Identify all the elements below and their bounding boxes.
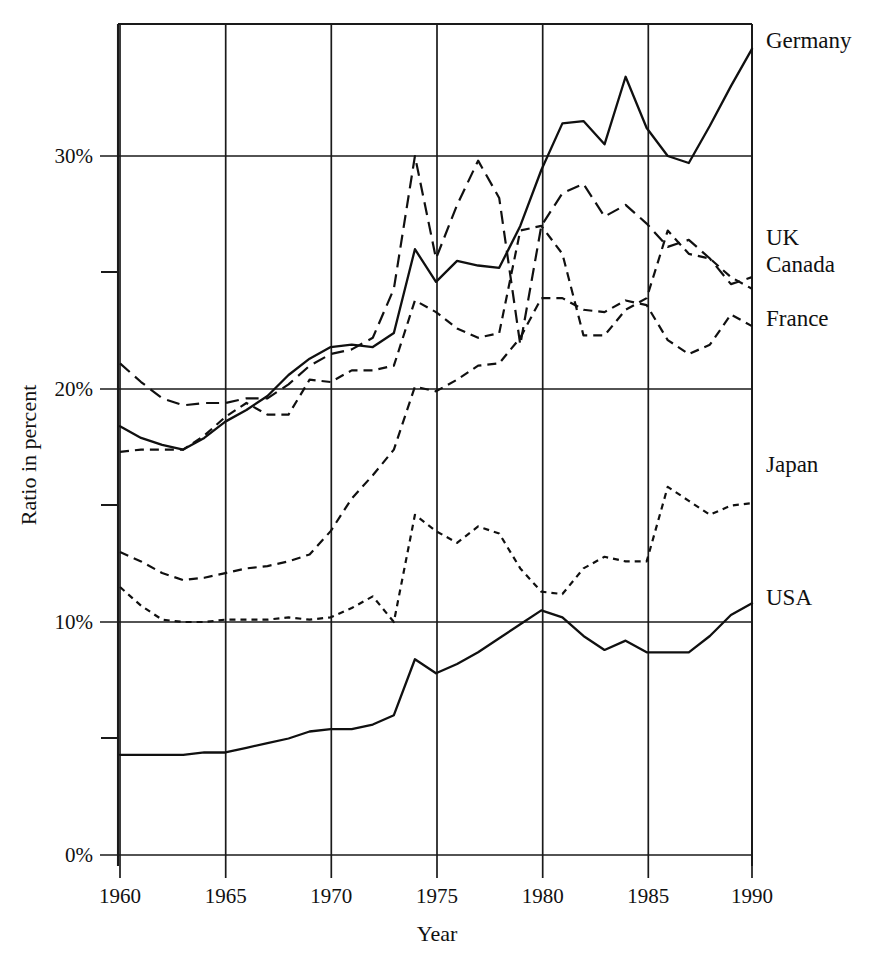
legend-label-uk: UK bbox=[766, 225, 800, 250]
legend-label-france: France bbox=[766, 306, 829, 331]
y-axis-title: Ratio in percent bbox=[16, 385, 41, 526]
x-tick-label-1970: 1970 bbox=[310, 884, 352, 908]
line-chart-svg: 0% 10% 20% 30% 1960 1965 1970 1975 1980 … bbox=[0, 0, 883, 953]
x-tick-label-1965: 1965 bbox=[205, 884, 247, 908]
y-tick-label-10: 10% bbox=[55, 610, 94, 634]
x-tick-label-1985: 1985 bbox=[627, 884, 669, 908]
chart-background bbox=[0, 0, 883, 953]
legend-label-canada: Canada bbox=[766, 252, 835, 277]
legend-label-japan: Japan bbox=[766, 452, 819, 477]
x-axis-title: Year bbox=[417, 921, 458, 946]
y-tick-label-30: 30% bbox=[55, 144, 94, 168]
y-tick-label-20: 20% bbox=[55, 377, 94, 401]
x-tick-label-1980: 1980 bbox=[522, 884, 564, 908]
y-tick-label-0: 0% bbox=[65, 843, 93, 867]
x-tick-label-1960: 1960 bbox=[99, 884, 141, 908]
legend-label-germany: Germany bbox=[766, 28, 852, 53]
chart-figure: 0% 10% 20% 30% 1960 1965 1970 1975 1980 … bbox=[0, 0, 883, 953]
x-tick-label-1975: 1975 bbox=[416, 884, 458, 908]
legend-label-usa: USA bbox=[766, 585, 812, 610]
x-tick-label-1990: 1990 bbox=[731, 884, 773, 908]
